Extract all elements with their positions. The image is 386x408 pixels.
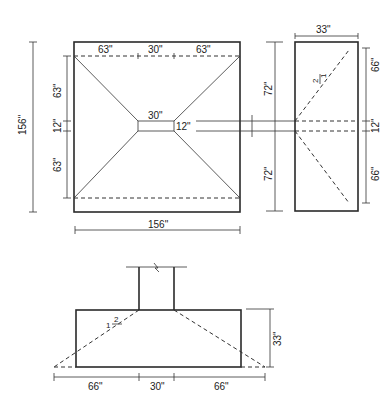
section-height: 33" xyxy=(272,331,283,346)
section-footing xyxy=(76,310,241,367)
section-slope-rise: 1 xyxy=(106,321,111,330)
side-right-seg-3: 66" xyxy=(370,166,381,181)
side-left-seg-1: 72" xyxy=(263,81,274,96)
side-slope-lower xyxy=(295,131,349,203)
section-bottom-seg-2: 30" xyxy=(150,381,165,392)
plan-overall-height: 156" xyxy=(17,114,28,135)
plan-overall-width: 156" xyxy=(148,219,169,230)
plan-left-seg-1: 63" xyxy=(52,83,63,98)
plan-top-seg-3: 63" xyxy=(196,44,211,55)
side-right-seg-1: 66" xyxy=(370,57,381,72)
section-view: 1 2 33" 66" 30" 66" xyxy=(54,263,283,392)
section-bottom-seg-3: 66" xyxy=(214,381,229,392)
plan-center-height: 12" xyxy=(176,121,191,132)
side-right-seg-2: 12" xyxy=(370,118,381,133)
section-slope-right xyxy=(174,310,265,367)
side-outline xyxy=(295,42,358,211)
break-symbol-icon xyxy=(154,263,159,272)
plan-diagonal-bl xyxy=(74,131,138,198)
plan-outline xyxy=(74,42,240,212)
plan-diagonal-tl xyxy=(74,56,138,121)
plan-diagonal-tr xyxy=(174,56,240,121)
plan-view: 63" 30" 63" 30" 12" 63" 12" 63" 156" 156… xyxy=(17,42,296,234)
section-bottom-seg-1: 66" xyxy=(88,381,103,392)
footing-drawing: 63" 30" 63" 30" 12" 63" 12" 63" 156" 156… xyxy=(0,0,386,408)
side-slope-upper xyxy=(295,50,349,121)
side-left-seg-2: 72" xyxy=(263,166,274,181)
plan-top-seg-2: 30" xyxy=(148,44,163,55)
plan-left-seg-2: 12" xyxy=(52,118,63,133)
plan-left-seg-3: 63" xyxy=(52,157,63,172)
side-view: 2 1 33" 72" 72" 66" 12" 66" xyxy=(252,24,381,211)
plan-diagonal-br xyxy=(174,131,240,198)
section-slope-run: 2 xyxy=(114,315,119,324)
plan-top-seg-1: 63" xyxy=(98,44,113,55)
section-slope-left xyxy=(54,310,139,367)
side-width: 33" xyxy=(316,24,331,35)
plan-column-box xyxy=(138,121,174,131)
plan-center-width: 30" xyxy=(148,110,163,121)
